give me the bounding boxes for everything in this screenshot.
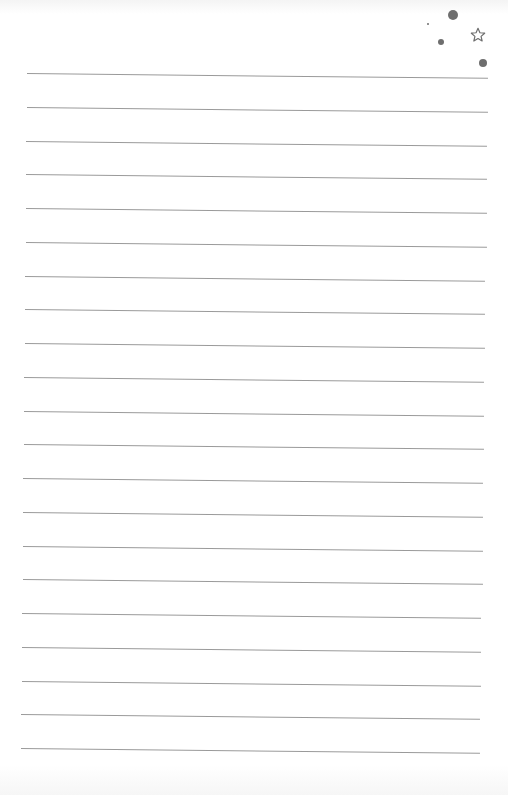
ruled-line (23, 478, 483, 484)
ruled-line (27, 73, 488, 79)
ruled-line (22, 647, 481, 653)
dot-icon (479, 59, 487, 67)
dot-icon (448, 10, 458, 20)
ruled-line (25, 343, 485, 349)
ruled-line (27, 107, 488, 113)
ruled-line (22, 579, 481, 585)
ruled-line (26, 208, 487, 214)
dot-icon (438, 39, 444, 45)
ruled-line (25, 242, 485, 248)
ruled-line (26, 141, 487, 147)
ruled-line (25, 276, 485, 282)
ruled-lines (0, 0, 508, 795)
star-icon (470, 27, 486, 43)
dot-icon (427, 23, 429, 25)
ruled-line (24, 444, 484, 450)
ruled-line (22, 681, 481, 687)
ruled-line (26, 174, 487, 180)
ruled-line (24, 377, 484, 383)
ruled-line (23, 546, 483, 552)
ruled-line (22, 613, 481, 619)
ruled-line (21, 748, 480, 754)
ruled-line (24, 411, 484, 417)
ruled-line (25, 309, 485, 315)
ruled-line (21, 714, 480, 720)
ruled-line (23, 512, 483, 518)
